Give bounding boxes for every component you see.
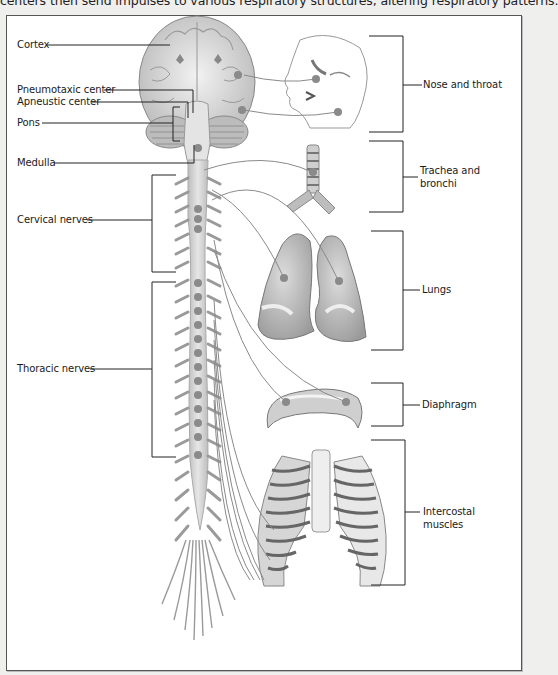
label-pons: Pons [17, 117, 40, 129]
label-intercostal-muscles-line1: Intercostal [423, 506, 475, 518]
label-pneumotaxic-center: Pneumotaxic center [17, 84, 115, 96]
label-trachea-and-bronchi-line1: Trachea and [420, 165, 480, 177]
label-diaphragm: Diaphragm [422, 399, 477, 411]
label-intercostal-muscles-line2: muscles [423, 519, 463, 531]
label-cervical-nerves: Cervical nerves [17, 214, 93, 226]
label-trachea-and-bronchi-line2: bronchi [420, 178, 457, 190]
ribcage-illustration [258, 450, 387, 586]
trachea-illustration [287, 145, 335, 214]
label-lungs: Lungs [422, 284, 451, 296]
label-apneustic-center: Apneustic center [17, 96, 100, 108]
label-nose-and-throat: Nose and throat [423, 79, 502, 91]
label-thoracic-nerves: Thoracic nerves [17, 363, 95, 375]
lungs-illustration [258, 234, 366, 342]
label-medulla: Medulla [17, 157, 55, 169]
label-cortex: Cortex [17, 39, 49, 51]
diaphragm-illustration [267, 389, 362, 428]
